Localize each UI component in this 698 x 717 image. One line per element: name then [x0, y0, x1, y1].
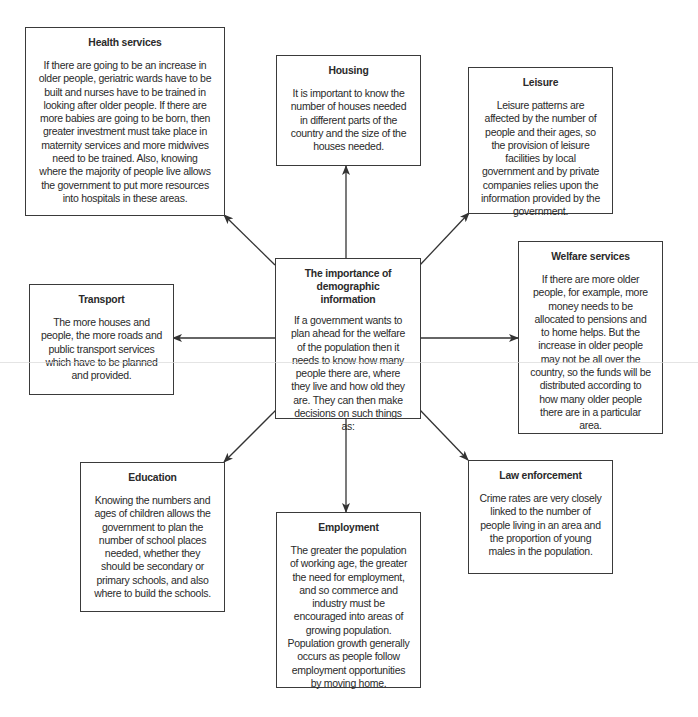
welfare-services-box: Welfare services If there are more older… — [518, 241, 663, 434]
arrow-to-education — [224, 410, 276, 462]
node-title: Employment — [289, 521, 409, 534]
node-text: The greater the population of working ag… — [287, 544, 409, 690]
node-title: Law enforcement — [481, 469, 601, 482]
node-title: Health services — [40, 36, 209, 49]
center-box: The importance of demographic informatio… — [275, 258, 421, 419]
arrow-to-law — [420, 410, 468, 460]
node-text: If there are more older people, for exam… — [529, 273, 651, 433]
education-box: Education Knowing the numbers and ages o… — [80, 462, 225, 612]
node-title: Welfare services — [531, 250, 651, 263]
housing-box: Housing It is important to know the numb… — [276, 55, 421, 166]
center-text: If a government wants to plan ahead for … — [286, 314, 409, 434]
node-text: The more houses and people, the more roa… — [40, 316, 162, 382]
node-title: Leisure — [481, 76, 601, 89]
node-text: If there are going to be an increase in … — [39, 59, 212, 205]
arrow-to-health — [224, 215, 275, 265]
node-title: Housing — [289, 64, 409, 77]
node-text: Knowing the numbers and ages of children… — [91, 494, 213, 600]
node-title: Transport — [42, 293, 162, 306]
node-text: Leisure patterns are affected by the num… — [479, 99, 601, 219]
node-text: Crime rates are very closely linked to t… — [479, 492, 601, 558]
health-services-box: Health services If there are going to be… — [25, 27, 225, 216]
node-text: It is important to know the number of ho… — [287, 87, 409, 153]
node-title: Education — [93, 471, 213, 484]
scan-artifact-line — [0, 362, 698, 363]
law-enforcement-box: Law enforcement Crime rates are very clo… — [468, 460, 613, 574]
center-title: The importance of demographic informatio… — [288, 267, 409, 306]
leisure-box: Leisure Leisure patterns are affected by… — [468, 67, 613, 214]
employment-box: Employment The greater the population of… — [276, 512, 421, 688]
arrow-to-leisure — [420, 213, 469, 265]
transport-box: Transport The more houses and people, th… — [29, 284, 174, 395]
